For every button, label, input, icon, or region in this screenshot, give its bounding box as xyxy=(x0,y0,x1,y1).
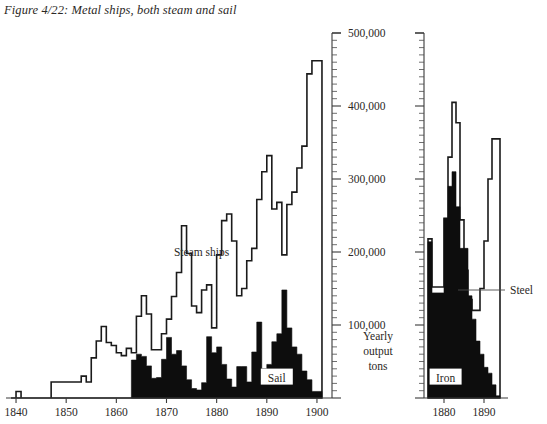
figure-container: Figure 4/22: Metal ships, both steam and… xyxy=(0,0,547,424)
x-tick-label: 1890 xyxy=(473,406,496,418)
x-tick-label: 1860 xyxy=(105,406,128,418)
chart-canvas: 1840185018601870188018901900 100,000200,… xyxy=(0,0,547,424)
x-tick-label: 1890 xyxy=(255,406,278,418)
y-axis-label-line: tons xyxy=(368,360,388,372)
y-tick-label: 200,000 xyxy=(348,246,386,259)
x-tick-label: 1850 xyxy=(55,406,78,418)
x-tick-label: 1880 xyxy=(433,406,456,418)
annotation-label: Sail xyxy=(268,372,286,384)
y-axis-label: Yearlyoutputtons xyxy=(363,330,394,372)
x-tick-label: 1870 xyxy=(155,406,178,418)
y-tick-label: 400,000 xyxy=(348,100,386,113)
left-chart-x-axis: 1840185018601870188018901900 xyxy=(5,398,329,418)
y-tick-label: 500,000 xyxy=(348,27,386,40)
y-axis-label-line: output xyxy=(363,345,393,358)
x-tick-label: 1900 xyxy=(305,406,328,418)
y-tick-label: 300,000 xyxy=(348,173,386,186)
left-chart-y-tick-labels: 100,000200,000300,000400,000500,000 xyxy=(348,27,386,332)
left-chart-series xyxy=(11,61,322,398)
annotation-label: Iron xyxy=(436,372,455,384)
annotation-label: Steam ships xyxy=(174,246,230,259)
x-tick-label: 1880 xyxy=(205,406,228,418)
y-axis-label-line: Yearly xyxy=(363,330,393,343)
right-chart-series xyxy=(428,102,500,398)
annotation-label: Steel xyxy=(510,284,533,296)
x-tick-label: 1840 xyxy=(5,406,28,418)
right-chart-x-axis: 18801890 xyxy=(433,398,496,418)
